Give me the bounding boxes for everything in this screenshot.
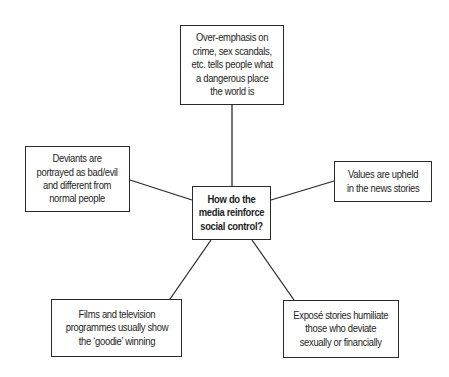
text-line: Over-emphasis on xyxy=(191,31,272,44)
text-line: those who deviate xyxy=(294,322,389,335)
text-line: Exposé stories humiliate xyxy=(294,309,389,322)
text-line: and different from xyxy=(37,179,118,192)
node-left: Deviants are portrayed as bad/evil and d… xyxy=(25,146,130,212)
text-line: sexually or financially xyxy=(294,336,389,349)
center-node: How do the media reinforce social contro… xyxy=(192,186,271,240)
node-bottom-right: Exposé stories humiliate those who devia… xyxy=(283,300,399,358)
center-node-text: How do the media reinforce social contro… xyxy=(195,193,268,233)
node-right-text: Values are upheld in the news stories xyxy=(343,168,423,195)
text-line: normal people xyxy=(37,192,118,205)
text-line: social control? xyxy=(199,220,265,233)
text-line: media reinforce xyxy=(199,206,265,219)
text-line: How do the xyxy=(199,193,265,206)
node-right: Values are upheld in the news stories xyxy=(334,161,432,202)
node-bottom-left-text: Films and television programmes usually … xyxy=(60,308,174,348)
text-line: Deviants are xyxy=(37,152,118,165)
text-line: Values are upheld xyxy=(347,168,419,181)
text-line: etc. tells people what xyxy=(191,58,272,71)
text-line: portrayed as bad/evil xyxy=(37,166,118,179)
text-line: crime, sex scandals, xyxy=(191,45,272,58)
node-top-text: Over-emphasis on crime, sex scandals, et… xyxy=(187,31,277,98)
text-line: the ‘goodie’ winning xyxy=(65,335,168,348)
text-line: Films and television xyxy=(65,308,168,321)
text-line: in the news stories xyxy=(347,182,419,195)
text-line: programmes usually show xyxy=(65,321,168,334)
connector-bottom-right xyxy=(252,240,294,300)
node-left-text: Deviants are portrayed as bad/evil and d… xyxy=(32,152,122,206)
node-bottom-left: Films and television programmes usually … xyxy=(51,299,182,357)
text-line: a dangerous place xyxy=(191,72,272,85)
text-line: the world is xyxy=(191,85,272,98)
connector-bottom-left xyxy=(170,240,211,299)
connector-left xyxy=(130,180,192,200)
connector-right xyxy=(271,181,334,200)
node-top: Over-emphasis on crime, sex scandals, et… xyxy=(180,25,284,105)
node-bottom-right-text: Exposé stories humiliate those who devia… xyxy=(288,309,393,349)
